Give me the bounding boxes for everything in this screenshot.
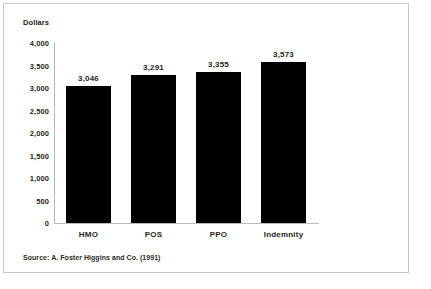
y-axis-tick-label: 2,500: [9, 107, 49, 116]
bar: [131, 75, 176, 223]
y-axis-tick-label: 2,000: [9, 129, 49, 138]
y-axis-tick-label: 3,000: [9, 84, 49, 93]
bar-value-label: 3,291: [124, 63, 184, 72]
x-axis-category-label: Indemnity: [249, 230, 319, 239]
bar-value-label: 3,355: [189, 60, 249, 69]
chart-figure: Dollars 4,0003,5003,0002,5002,0001,5001,…: [3, 3, 409, 273]
y-axis-line: [54, 43, 55, 223]
y-axis-tick-label: 1,500: [9, 152, 49, 161]
bar: [66, 86, 111, 223]
bar-value-label: 3,046: [59, 74, 119, 83]
bar: [261, 62, 306, 223]
bar: [196, 72, 241, 223]
source-note: Source: A. Foster Higgins and Co. (1991): [23, 254, 160, 261]
bar-value-label: 3,573: [254, 50, 314, 59]
plot-area: 4,0003,5003,0002,5002,0001,5001,0005000 …: [4, 4, 410, 274]
y-axis-tick-label: 3,500: [9, 62, 49, 71]
y-axis-tick-label: 500: [9, 197, 49, 206]
x-axis-category-label: PPO: [184, 230, 254, 239]
y-axis-tick-label: 1,000: [9, 174, 49, 183]
x-axis-line: [54, 223, 319, 224]
y-axis-tick-label: 0: [9, 219, 49, 228]
x-axis-category-label: HMO: [54, 230, 124, 239]
y-axis-tick-label: 4,000: [9, 39, 49, 48]
x-axis-category-label: POS: [119, 230, 189, 239]
